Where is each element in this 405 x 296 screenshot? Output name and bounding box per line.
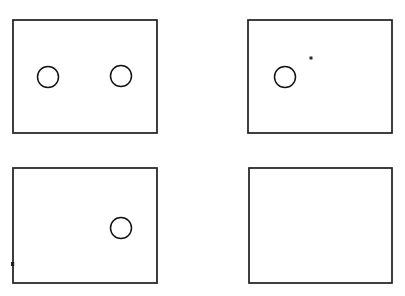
panel-bottom-left-rectangle	[13, 168, 157, 283]
panel-top-left-rectangle	[13, 20, 157, 133]
circle-tl-left	[38, 67, 59, 88]
circle-tl-right	[111, 66, 132, 87]
panel-bottom-left	[11, 168, 157, 283]
panel-top-right-rectangle	[248, 20, 392, 133]
panel-bottom-right-rectangle	[249, 168, 392, 283]
circle-bl-right	[111, 218, 132, 239]
speck-tr-mark	[310, 57, 313, 60]
panel-top-left	[13, 20, 157, 133]
four-panel-figure	[0, 0, 405, 296]
circle-tr-left	[275, 67, 296, 88]
panel-top-right	[248, 20, 392, 133]
nick-bl-mark	[11, 262, 14, 266]
diagram-canvas: Four panel diagram with circles	[0, 0, 405, 296]
panel-bottom-right	[249, 168, 392, 283]
